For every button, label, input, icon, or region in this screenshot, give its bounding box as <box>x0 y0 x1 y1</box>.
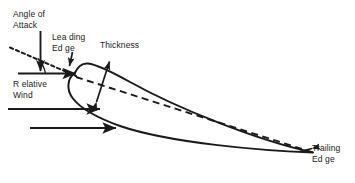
angle-of-attack-label: Angle of Attack <box>13 9 45 30</box>
thickness-label: Thickness <box>100 40 139 51</box>
airfoil-drawing <box>0 0 355 183</box>
trailing-edge-label: Trailing Ed ge <box>312 143 340 164</box>
leading-edge-leader-arrow <box>70 52 73 66</box>
leading-edge-label: Lea ding Ed ge <box>52 32 85 53</box>
relative-wind-label: R elative Wind <box>13 79 47 100</box>
airfoil-diagram: Angle of Attack Lea ding Ed ge Thickness… <box>0 0 355 183</box>
